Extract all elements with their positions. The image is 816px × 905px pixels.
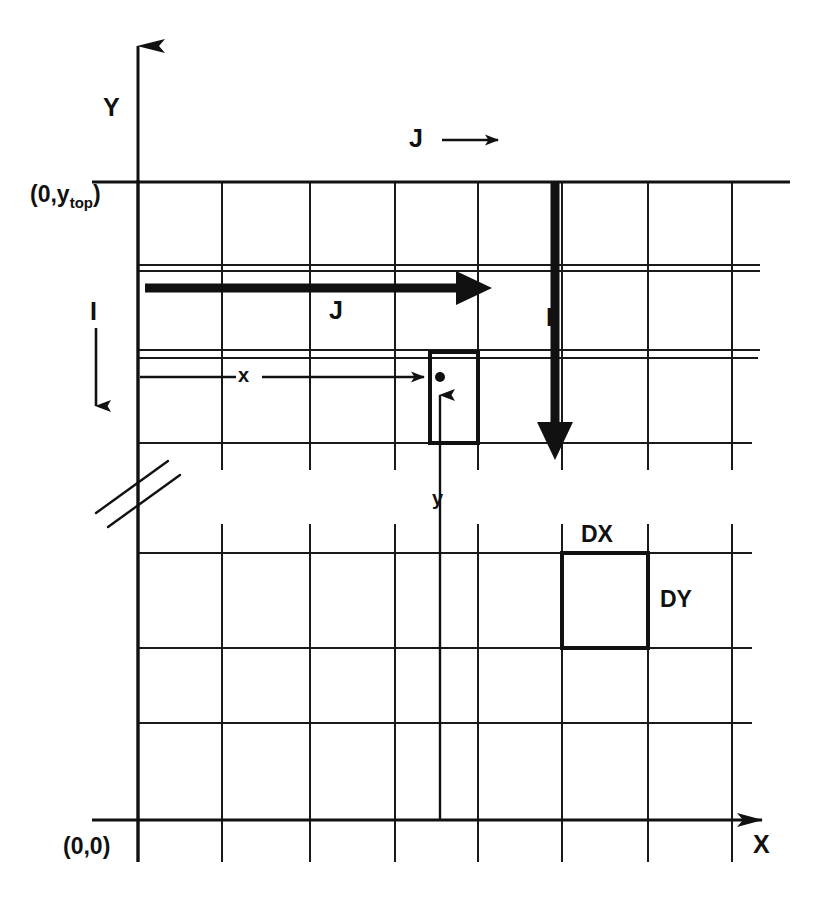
y-offset-label: y — [432, 487, 443, 510]
y-top-subscript: top — [70, 194, 93, 211]
i-left-label: I — [90, 297, 97, 326]
point-marker — [435, 372, 445, 382]
j-legend-label: J — [409, 124, 423, 153]
j-thick-arrow — [145, 271, 492, 305]
origin-label: (0,0) — [63, 833, 110, 860]
y-axis-label: Y — [103, 93, 120, 122]
y-top-label: (0,ytop) — [30, 181, 101, 211]
j-inner-label: J — [329, 296, 343, 325]
i-thick-arrow — [537, 182, 573, 460]
y-top-suffix: ) — [93, 181, 101, 207]
i-inner-label: I — [546, 303, 553, 332]
dy-label: DY — [660, 586, 692, 613]
x-axis-label: X — [753, 830, 770, 859]
dxdy-cell[interactable] — [562, 553, 648, 648]
y-top-prefix: (0,y — [30, 181, 70, 207]
diagram-canvas: Y X (0,0) (0,ytop) J J I I x y DX DY — [0, 0, 816, 905]
dx-label: DX — [581, 521, 613, 548]
x-offset-label: x — [238, 364, 249, 387]
grid-diagram-svg — [0, 0, 816, 905]
selected-cell[interactable] — [430, 352, 478, 443]
